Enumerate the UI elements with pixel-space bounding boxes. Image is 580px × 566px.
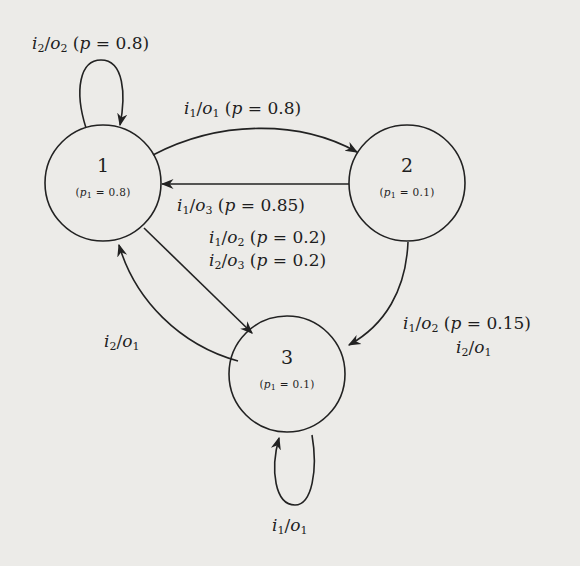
edge-label-2-to-3-line2: i2/o1	[456, 337, 491, 357]
edge-1-to-2	[153, 128, 357, 155]
diagram-canvas	[0, 0, 580, 566]
input-index: 2	[109, 340, 116, 353]
edge-1-to-1-loop	[80, 60, 123, 128]
prob-var: p	[264, 378, 271, 390]
output-index: 1	[212, 107, 219, 120]
prob-sub: 1	[391, 191, 396, 200]
prob-value: 0.1	[413, 186, 431, 198]
state-node-1-prob: (p1 = 0.8)	[53, 186, 153, 198]
edge-label-2-to-1: i1/o3 (p = 0.85)	[177, 195, 305, 215]
state-node-2-label: 2	[377, 154, 437, 176]
output-index: 1	[484, 346, 491, 359]
output-index: 2	[431, 322, 438, 335]
output-index: 2	[237, 236, 244, 249]
edge-label-1-to-3-line2: i2/o3 (p = 0.2)	[209, 250, 326, 270]
prob-value: 0.85	[260, 195, 298, 215]
edge-label-2-to-3-line1: i1/o2 (p = 0.15)	[403, 313, 531, 333]
edge-2-to-3	[349, 242, 408, 345]
input-index: 2	[461, 346, 468, 359]
state-node-1-circle	[45, 125, 161, 241]
output-index: 3	[237, 259, 244, 272]
state-node-3-circle	[229, 316, 345, 432]
prob-var: p	[384, 186, 391, 198]
prob-value: 0.15	[486, 313, 524, 333]
output-index: 1	[132, 340, 139, 353]
edge-label-3-to-1: i2/o1	[104, 331, 139, 351]
state-node-3-label: 3	[257, 346, 317, 368]
state-node-3-prob: (p1 = 0.1)	[237, 378, 337, 390]
state-diagram: 1 (p1 = 0.8) 2 (p1 = 0.1) 3 (p1 = 0.1) i…	[0, 0, 580, 566]
input-index: 1	[214, 236, 221, 249]
prob-sub: 1	[271, 383, 276, 392]
input-index: 2	[214, 259, 221, 272]
input-index: 1	[408, 322, 415, 335]
edge-label-1-to-2: i1/o1 (p = 0.8)	[184, 98, 301, 118]
prob-value: 0.2	[292, 227, 319, 247]
prob-value: 0.8	[115, 33, 142, 53]
output-index: 3	[205, 204, 212, 217]
edge-label-1-to-1: i2/o2 (p = 0.8)	[32, 33, 149, 53]
state-node-2-prob: (p1 = 0.1)	[357, 186, 457, 198]
output-index: 2	[60, 42, 67, 55]
prob-sub: 1	[87, 191, 92, 200]
edge-label-3-to-3: i1/o1	[272, 515, 307, 535]
prob-value: 0.2	[292, 250, 319, 270]
prob-value: 0.8	[267, 98, 294, 118]
state-node-2-circle	[349, 125, 465, 241]
edge-3-to-3-loop	[275, 435, 315, 505]
prob-value: 0.8	[109, 186, 127, 198]
output-index: 1	[300, 524, 307, 537]
input-index: 2	[37, 42, 44, 55]
edge-label-1-to-3-line1: i1/o2 (p = 0.2)	[209, 227, 326, 247]
prob-value: 0.1	[293, 378, 311, 390]
input-index: 1	[277, 524, 284, 537]
input-index: 1	[189, 107, 196, 120]
input-index: 1	[182, 204, 189, 217]
prob-var: p	[80, 186, 87, 198]
state-node-1-label: 1	[73, 154, 133, 176]
